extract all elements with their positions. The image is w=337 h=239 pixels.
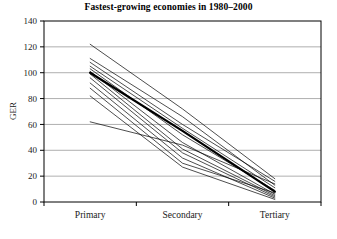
x-category-label-secondary: Secondary <box>162 210 202 220</box>
chart-container: Fastest-growing economies in 1980–2000 0… <box>0 0 337 239</box>
y-tick-label-80: 80 <box>28 94 38 104</box>
y-tick-label-100: 100 <box>24 68 38 78</box>
y-axis-title: GER <box>8 102 18 120</box>
y-tick-label-120: 120 <box>24 42 38 52</box>
y-axis: 020406080100120140 <box>24 16 45 207</box>
x-category-label-tertiary: Tertiary <box>260 210 290 220</box>
plot-background <box>44 21 321 202</box>
x-axis: PrimarySecondaryTertiary <box>44 202 321 220</box>
x-category-label-primary: Primary <box>75 210 106 220</box>
y-tick-label-60: 60 <box>28 120 38 130</box>
line-chart-plot: 020406080100120140 PrimarySecondaryTerti… <box>0 0 337 239</box>
y-tick-label-20: 20 <box>28 171 38 181</box>
y-tick-label-140: 140 <box>24 16 38 26</box>
y-tick-label-0: 0 <box>33 197 38 207</box>
y-tick-label-40: 40 <box>28 145 38 155</box>
